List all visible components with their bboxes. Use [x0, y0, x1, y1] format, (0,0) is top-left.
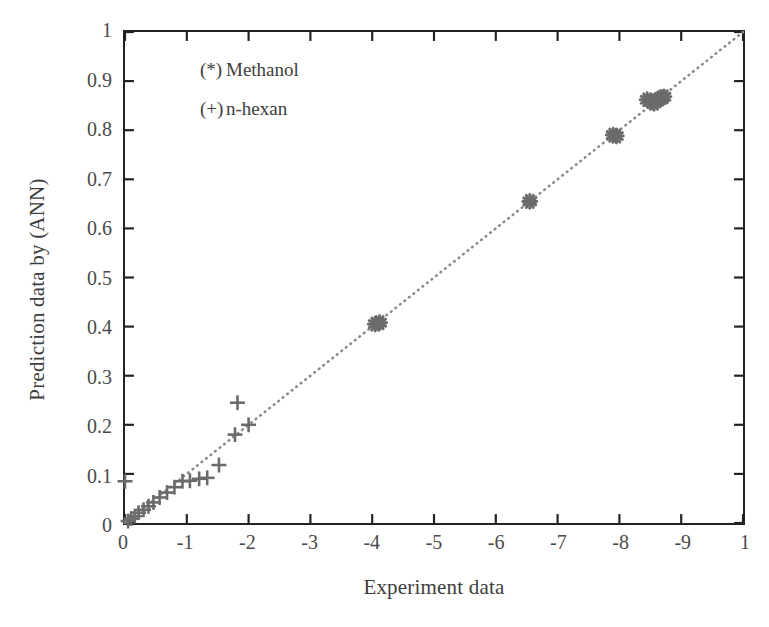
data-point: [211, 458, 226, 473]
y-tick-label: 0.5: [52, 266, 112, 289]
x-tick-label: -2: [220, 531, 274, 554]
y-tick-label: 0.1: [52, 464, 112, 487]
y-tick-label: 0.8: [52, 118, 112, 141]
x-tick-label: -9: [656, 531, 710, 554]
legend-marker-icon: (+): [200, 98, 226, 120]
series-n-hexan: [118, 395, 257, 528]
x-axis-tick-labels: 0-1-2-3-4-5-6-7-8-91: [123, 531, 745, 561]
x-tick-label: 0: [96, 531, 150, 554]
y-tick-label: 0.2: [52, 415, 112, 438]
x-tick-label: -1: [158, 531, 212, 554]
y-tick-label: 0.4: [52, 316, 112, 339]
x-tick-label: -6: [469, 531, 523, 554]
y-tick-label: 0.7: [52, 167, 112, 190]
legend-entry: (*)Methanol: [200, 59, 460, 81]
data-point: [118, 474, 133, 489]
x-tick-label: 1: [718, 531, 769, 554]
plot-area: (*)Methanol(+)n-hexan: [123, 30, 745, 525]
legend-marker-icon: (*): [200, 59, 226, 81]
legend: (*)Methanol(+)n-hexan: [200, 59, 460, 137]
legend-entry: (+)n-hexan: [200, 98, 460, 120]
y-tick-label: 0.9: [52, 68, 112, 91]
y-tick-label: 0.6: [52, 217, 112, 240]
x-tick-label: -5: [407, 531, 461, 554]
figure-scatter-parity-plot: Prediction data by (ANN) 00.10.20.30.40.…: [0, 0, 769, 627]
y-tick-label: 1: [52, 19, 112, 42]
y-tick-label: 0.3: [52, 365, 112, 388]
legend-label: Methanol: [226, 59, 299, 80]
x-axis-title: Experiment data: [123, 575, 745, 600]
y-axis-tick-labels: 00.10.20.30.40.50.60.70.80.91: [46, 30, 112, 525]
x-tick-label: -3: [283, 531, 337, 554]
x-tick-label: -7: [531, 531, 585, 554]
data-point: [230, 395, 245, 410]
x-tick-label: -4: [345, 531, 399, 554]
legend-label: n-hexan: [226, 98, 287, 119]
x-tick-label: -8: [594, 531, 648, 554]
data-point: [200, 470, 215, 485]
